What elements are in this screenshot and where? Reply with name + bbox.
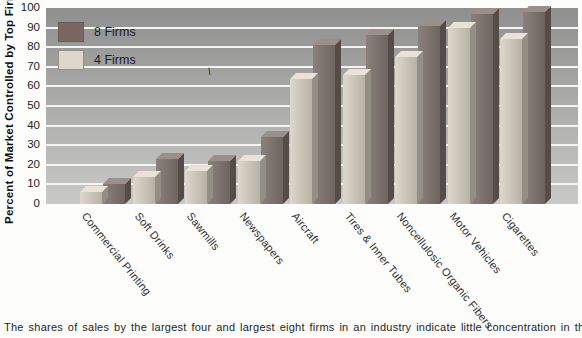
bar-side-face [417, 51, 423, 204]
legend-swatch-4-firms [58, 50, 84, 70]
y-tick-label: 70 [0, 60, 40, 72]
bar-side-face [440, 20, 446, 204]
y-tick-label: 80 [0, 40, 40, 52]
y-tick-label: 60 [0, 79, 40, 91]
bar-4-firms-6 [395, 57, 417, 204]
category-label: Sawmills [185, 210, 223, 253]
bar-4-firms-1 [133, 177, 155, 204]
bar-face [343, 75, 365, 204]
bar-face [448, 28, 470, 204]
bar-side-face [283, 131, 289, 204]
bar-4-firms-2 [185, 171, 207, 204]
bar-4-firms-0 [80, 192, 102, 204]
y-tick-label: 50 [0, 99, 40, 111]
y-axis-tick-labels: 0102030405060708090100 [0, 0, 40, 220]
bar-4-firms-8 [500, 39, 522, 204]
category-label: Soft Drinks [132, 210, 177, 261]
legend-label-4-firms: 4 Firms [94, 53, 136, 67]
y-tick-label: 30 [0, 138, 40, 150]
legend-label-8-firms: 8 Firms [94, 25, 136, 39]
bar-face [185, 171, 207, 204]
bar-face [80, 192, 102, 204]
bar-4-firms-4 [290, 79, 312, 204]
legend-swatch-8-firms [58, 22, 84, 42]
bar-top-face [133, 171, 161, 177]
bar-side-face [335, 39, 341, 204]
category-label: Newspapers [237, 210, 286, 267]
bar-face [133, 177, 155, 204]
bar-4-firms-7 [448, 28, 470, 204]
bar-side-face [365, 69, 371, 204]
y-tick-label: 90 [0, 21, 40, 33]
y-tick-label: 20 [0, 158, 40, 170]
legend-item-4-firms: 4 Firms [58, 50, 136, 70]
category-label: Noncellulosic Organic Fibers [395, 210, 496, 331]
y-tick-label: 10 [0, 177, 40, 189]
figure-caption: The shares of sales by the largest four … [4, 321, 582, 333]
bar-side-face [545, 6, 551, 204]
bar-face [238, 161, 260, 204]
bar-4-firms-5 [343, 75, 365, 204]
bar-side-face [312, 73, 318, 204]
bar-side-face [178, 153, 184, 204]
bar-face [395, 57, 417, 204]
bar-face [500, 39, 522, 204]
bar-face [290, 79, 312, 204]
bar-side-face [388, 29, 394, 204]
bar-4-firms-3 [238, 161, 260, 204]
legend: 8 Firms 4 Firms [58, 22, 136, 78]
category-label: Aircraft [290, 210, 322, 246]
y-tick-label: 100 [0, 1, 40, 13]
plot-area: 8 Firms 4 Firms [46, 8, 578, 204]
bar-side-face [470, 22, 476, 204]
bar-side-face [260, 155, 266, 204]
category-label: Cigarettes [500, 210, 542, 258]
y-tick-label: 0 [0, 197, 40, 209]
bar-side-face [230, 155, 236, 204]
category-label: Motor Vehicles [447, 210, 503, 276]
legend-item-8-firms: 8 Firms [58, 22, 136, 42]
bar-side-face [493, 8, 499, 204]
bar-side-face [207, 165, 213, 204]
y-tick-label: 40 [0, 119, 40, 131]
bar-side-face [522, 33, 528, 204]
